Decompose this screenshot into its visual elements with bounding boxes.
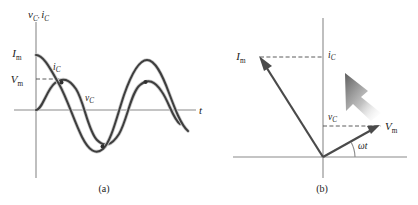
ic-curve-label-sub: C [56, 66, 61, 74]
vc-projection-label-sub: C [332, 116, 337, 124]
vertical-axis-label: vC, iC [28, 8, 49, 23]
panel-a-waveform-plot: vC, iC t Im Vm iC vC (a) [0, 0, 209, 205]
vc-curve-label-sub: C [89, 97, 94, 105]
ic-projection-label: iC [328, 50, 336, 62]
im-phasor-shaft [263, 62, 323, 157]
time-axis-label: t [199, 104, 203, 116]
counterclockwise-rotation-arrow-icon [345, 73, 381, 121]
vertical-axis-label-i-sub: C [44, 15, 49, 23]
vc-curve-halo [36, 80, 180, 145]
panel-b-caption: (b) [316, 183, 328, 195]
im-phasor-label: Im [235, 50, 246, 65]
omega-t-angle-arc [351, 142, 355, 157]
vm-amplitude-label: Vm [11, 73, 24, 88]
im-amplitude-label: Im [11, 47, 22, 62]
im-phasor-label-sub: m [240, 57, 246, 65]
panel-a-caption: (a) [98, 183, 109, 195]
ic-projection-label-sub: C [331, 54, 336, 62]
im-amplitude-label-sub: m [16, 54, 22, 62]
curve-intersection-dot-1 [60, 81, 64, 85]
vm-phasor-label-sub: m [392, 127, 398, 135]
im-phasor-arrowhead [259, 56, 272, 71]
vm-phasor-label: Vm [385, 120, 398, 135]
vc-projection-label: vC [328, 112, 337, 124]
vm-phasor-arrowhead [367, 125, 380, 134]
omega-t-label: ωt [358, 141, 368, 151]
figure-root: vC, iC t Im Vm iC vC (a) [0, 0, 418, 205]
vm-amplitude-label-sub: m [18, 80, 24, 88]
curve-intersection-dot-3 [144, 80, 148, 84]
panel-b-phasor-diagram: Im iC Vm vC ωt (b) [209, 0, 418, 205]
curve-intersection-dot-2 [101, 145, 105, 149]
vc-curve-label: vC [85, 93, 94, 105]
